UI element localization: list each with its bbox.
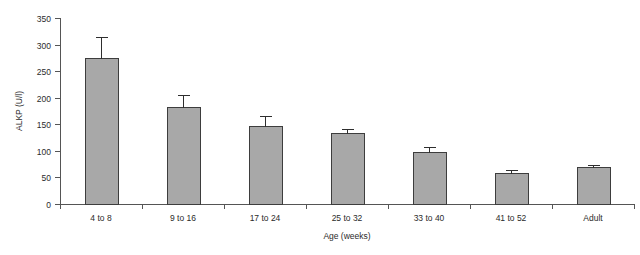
alkp-by-age-bar-chart: 050100150200250300350 ALKP (U/l) 4 to 89… [0,0,640,255]
bar [168,108,201,205]
bar [86,59,119,205]
x-tick-label: Adult [583,213,603,223]
y-axis-group: 050100150200250300350 ALKP (U/l) [14,14,61,210]
bar [578,168,611,205]
y-tick-label: 0 [46,200,51,210]
x-tick-label: 9 to 16 [170,213,196,223]
y-tick-label: 200 [37,94,51,104]
x-tick-label: 25 to 32 [332,213,363,223]
x-tick-label: 33 to 40 [414,213,445,223]
bar [414,153,447,205]
x-tick-label: 41 to 52 [496,213,527,223]
x-axis-group: 4 to 89 to 1617 to 2425 to 3233 to 4041 … [60,204,635,241]
bar [250,127,283,205]
y-tick-label: 250 [37,67,51,77]
y-axis-title: ALKP (U/l) [14,91,24,131]
y-tick-label: 150 [37,120,51,130]
bar [496,174,529,205]
y-tick-label: 350 [37,14,51,24]
y-tick-label: 50 [42,173,52,183]
x-axis-title: Age (weeks) [323,231,370,241]
bar [332,134,365,205]
y-axis-tick-labels: 050100150200250300350 [37,14,51,210]
x-axis-tick-labels: 4 to 89 to 1617 to 2425 to 3233 to 4041 … [90,213,603,223]
chart-canvas: 050100150200250300350 ALKP (U/l) 4 to 89… [0,0,640,255]
y-tick-label: 100 [37,147,51,157]
x-tick-label: 4 to 8 [90,213,112,223]
y-axis-tick-marks [55,19,61,205]
y-tick-label: 300 [37,41,51,51]
x-tick-label: 17 to 24 [250,213,281,223]
